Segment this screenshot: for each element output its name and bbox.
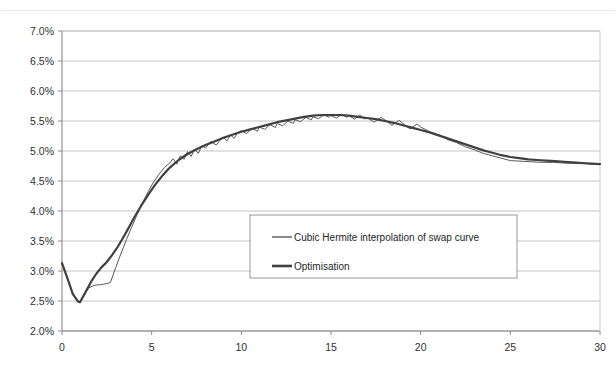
x-tick-label: 30 (594, 341, 606, 353)
y-tick-label: 4.5% (30, 175, 54, 187)
chart-figure: 2.0%2.5%3.0%3.5%4.0%4.5%5.0%5.5%6.0%6.5%… (0, 0, 616, 378)
x-tick-label: 25 (504, 341, 516, 353)
y-tick-label: 3.0% (30, 265, 54, 277)
line-chart-plot: 2.0%2.5%3.0%3.5%4.0%4.5%5.0%5.5%6.0%6.5%… (0, 0, 616, 378)
y-axis-ticks: 2.0%2.5%3.0%3.5%4.0%4.5%5.0%5.5%6.0%6.5%… (30, 25, 62, 337)
y-tick-label: 6.5% (30, 55, 54, 67)
chart-title-faint (200, 0, 430, 10)
legend-label-1: Cubic Hermite interpolation of swap curv… (294, 232, 480, 243)
x-tick-label: 0 (59, 341, 65, 353)
y-tick-label: 3.5% (30, 235, 54, 247)
top-divider-rule (2, 10, 614, 11)
x-tick-label: 15 (325, 341, 337, 353)
x-tick-label: 5 (149, 341, 155, 353)
y-tick-label: 4.0% (30, 205, 54, 217)
legend-label-2: Optimisation (294, 261, 350, 272)
y-tick-label: 6.0% (30, 85, 54, 97)
y-tick-label: 5.5% (30, 115, 54, 127)
x-tick-label: 10 (235, 341, 247, 353)
y-tick-label: 5.0% (30, 145, 54, 157)
y-tick-label: 2.5% (30, 295, 54, 307)
y-tick-label: 7.0% (30, 25, 54, 37)
chart-legend: Cubic Hermite interpolation of swap curv… (250, 215, 517, 278)
x-axis-ticks: 051015202530 (59, 331, 606, 353)
y-tick-label: 2.0% (30, 325, 54, 337)
legend-box (250, 215, 517, 278)
x-tick-label: 20 (415, 341, 427, 353)
